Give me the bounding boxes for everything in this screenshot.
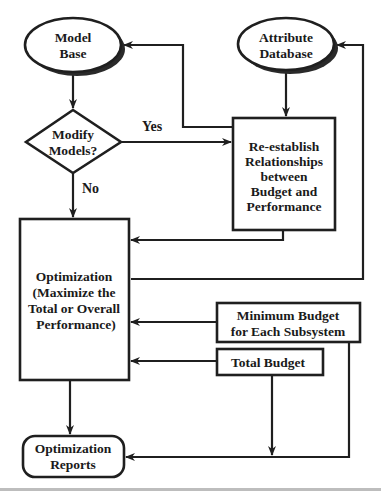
attribute-db-label-1: Attribute	[259, 30, 313, 45]
node-total-budget: Total Budget	[217, 349, 323, 375]
optimization-label-4: Performance)	[36, 317, 115, 332]
modify-models-label-2: Models?	[49, 143, 98, 158]
modify-models-label-1: Modify	[52, 127, 94, 142]
node-optimization: Optimization (Maximize the Total or Over…	[20, 219, 129, 380]
optimization-reports-label-1: Optimization	[35, 441, 112, 456]
node-optimization-reports: Optimization Reports	[23, 436, 124, 477]
reestablish-label-1: Re-establish	[249, 139, 320, 154]
optimization-label-1: Optimization	[36, 269, 113, 284]
edge-reestablish-to-modelbase	[124, 45, 233, 127]
edge-label-no: No	[82, 181, 99, 196]
reestablish-label-2: Relationships	[245, 154, 323, 169]
edge-reestablish-to-optimization	[131, 230, 283, 240]
reestablish-label-5: Performance	[247, 199, 322, 214]
optimization-label-3: Total or Overall	[28, 301, 120, 316]
model-base-label-2: Base	[60, 46, 87, 61]
node-reestablish: Re-establish Relationships between Budge…	[233, 118, 335, 230]
node-minimum-budget: Minimum Budget for Each Subsystem	[217, 303, 360, 342]
model-base-ellipse	[25, 18, 121, 72]
minimum-budget-label-1: Minimum Budget	[237, 308, 340, 323]
edge-label-yes: Yes	[142, 119, 163, 134]
model-base-label-1: Model	[55, 30, 92, 45]
reestablish-label-4: Budget and	[251, 184, 318, 199]
optimization-label-2: (Maximize the	[33, 285, 116, 300]
reestablish-label-3: between	[260, 169, 308, 184]
flowchart-canvas: Model Base Attribute Database Modify Mod…	[0, 0, 381, 491]
node-model-base: Model Base	[25, 18, 125, 76]
node-modify-models: Modify Models?	[26, 110, 121, 173]
total-budget-label: Total Budget	[231, 355, 306, 370]
attribute-db-label-2: Database	[259, 46, 312, 61]
node-attribute-database: Attribute Database	[238, 18, 338, 74]
minimum-budget-label-2: for Each Subsystem	[231, 324, 346, 339]
optimization-reports-label-2: Reports	[50, 457, 96, 472]
